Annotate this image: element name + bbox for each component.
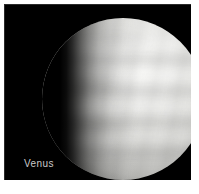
cloud-band-2 [42,55,191,65]
cloud-band-8 [42,148,191,158]
planet-disc-container [4,4,191,180]
cloud-sweep-texture [42,18,191,180]
cloud-mottle-texture [42,18,191,180]
cloud-band-1 [42,39,191,50]
sky-background: Venus [4,4,191,180]
terminator-shadow [42,18,191,180]
cloud-band-3 [42,70,191,81]
cloud-band-7 [42,131,191,142]
cloud-band-6 [42,117,191,127]
planet-caption-label: Venus [24,158,54,170]
cloud-band-5 [42,101,191,112]
cloud-band-4 [42,86,191,96]
limb-shading [42,18,191,180]
venus-figure: Venus [0,0,199,194]
venus-disc [42,18,191,180]
